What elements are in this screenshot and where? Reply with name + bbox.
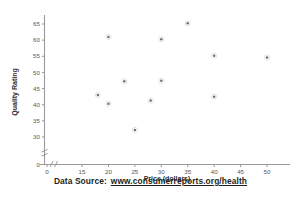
y-tick-label: 50 (33, 69, 40, 76)
x-axis-ticks: 01520253035404550 (45, 165, 271, 176)
data-point-group (95, 21, 269, 133)
y-tick-label: 60 (33, 36, 40, 43)
scatter-plot-figure: 03035404550556065 01520253035404550 Pric… (0, 0, 301, 198)
x-tick-label: 30 (158, 168, 165, 175)
data-point (107, 102, 110, 105)
data-point (123, 80, 126, 83)
y-tick-label: 35 (33, 117, 40, 124)
data-point (266, 56, 269, 59)
y-axis-ticks: 03035404550556065 (33, 20, 44, 168)
data-source-url[interactable]: www.consumerreports.org/health (111, 176, 247, 186)
y-tick-label: 65 (33, 20, 40, 27)
x-tick-label: 40 (211, 168, 218, 175)
y-tick-label: 0 (37, 161, 41, 168)
data-point (97, 94, 100, 97)
x-tick-label: 45 (237, 168, 244, 175)
axis-lines (40, 15, 290, 165)
y-tick-label: 45 (33, 85, 40, 92)
chart-canvas: 03035404550556065 01520253035404550 Pric… (0, 0, 301, 198)
y-tick-label: 55 (33, 52, 40, 59)
data-point (134, 129, 137, 132)
x-tick-label: 50 (264, 168, 271, 175)
data-point (160, 38, 163, 41)
data-point (107, 36, 110, 39)
data-point (213, 54, 216, 57)
data-point (186, 22, 189, 25)
y-tick-label: 40 (33, 101, 40, 108)
x-tick-label: 20 (105, 168, 112, 175)
data-point (213, 95, 216, 98)
x-tick-label: 25 (131, 168, 138, 175)
data-point (149, 99, 152, 102)
y-axis-title: Quality Rating (11, 68, 19, 115)
data-source-label: Data Source: (54, 176, 107, 186)
data-point (160, 80, 163, 83)
x-tick-label: 35 (184, 168, 191, 175)
x-tick-label: 0 (45, 168, 49, 175)
y-tick-label: 30 (33, 133, 40, 140)
data-source-caption: Data Source:www.consumerreports.org/heal… (0, 176, 301, 186)
x-tick-label: 15 (79, 168, 86, 175)
